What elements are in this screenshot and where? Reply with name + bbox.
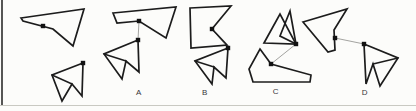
example-pair bbox=[21, 9, 85, 101]
option-label-c: C bbox=[273, 87, 279, 96]
shapes-canvas: A B C D bbox=[0, 0, 416, 111]
option-label-d: D bbox=[362, 88, 368, 97]
option-c-pair: C bbox=[249, 11, 311, 96]
puzzle-figure: A B C D bbox=[0, 0, 416, 111]
option-d-small-polygon bbox=[364, 44, 398, 86]
option-label-a: A bbox=[136, 88, 142, 97]
option-d-pair: D bbox=[303, 9, 398, 97]
marker-dot bbox=[41, 24, 45, 28]
option-label-b: B bbox=[202, 88, 208, 97]
option-a-connector-line bbox=[138, 21, 139, 40]
marker-dot bbox=[226, 46, 230, 50]
option-c-bottom-polygon bbox=[249, 49, 311, 82]
marker-dot bbox=[210, 27, 214, 31]
marker-dot bbox=[136, 38, 140, 42]
marker-dot bbox=[333, 36, 337, 40]
marker-dot bbox=[137, 19, 141, 23]
option-c-connector-line bbox=[271, 44, 296, 64]
marker-dot bbox=[294, 42, 298, 46]
marker-dot bbox=[362, 42, 366, 46]
option-d-connector-line bbox=[335, 38, 364, 44]
marker-dot bbox=[269, 62, 273, 66]
example-large-polygon bbox=[21, 9, 84, 46]
marker-dot bbox=[81, 61, 85, 65]
option-a-large-polygon bbox=[113, 7, 176, 38]
option-a-pair: A bbox=[104, 7, 176, 97]
option-b-pair: B bbox=[190, 6, 231, 97]
option-d-large-polygon bbox=[303, 9, 347, 52]
